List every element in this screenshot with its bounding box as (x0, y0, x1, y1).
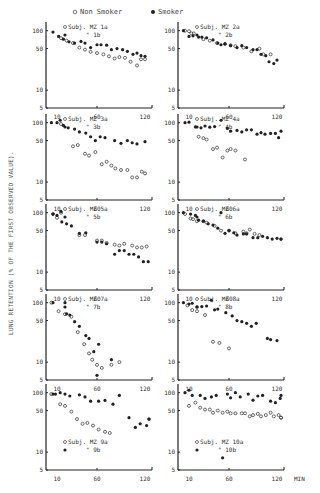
data-point-smoker (226, 392, 229, 395)
data-point-smoker (89, 400, 92, 403)
panel-6: 510501001060120Subj. MZ 6a" 6b (164, 204, 284, 302)
data-point-non-smoker (220, 229, 223, 232)
data-point-smoker (261, 235, 264, 238)
data-point-smoker (187, 302, 190, 305)
data-point-smoker (256, 394, 259, 397)
data-point-smoker (67, 40, 70, 43)
data-point-smoker (135, 51, 138, 54)
data-point-smoker (232, 231, 235, 234)
data-point-smoker (68, 394, 71, 397)
data-point-non-smoker (97, 428, 100, 431)
data-point-non-smoker (248, 228, 251, 231)
data-point-non-smoker (123, 242, 126, 245)
data-point-smoker (251, 48, 254, 51)
data-point-smoker (84, 231, 87, 234)
data-point-smoker (235, 46, 238, 49)
data-point-smoker (200, 305, 203, 308)
data-point-non-smoker (126, 168, 129, 171)
data-point-smoker (240, 130, 243, 133)
data-point-smoker (78, 130, 81, 133)
data-point-smoker (97, 400, 100, 403)
data-point-smoker (54, 392, 57, 395)
y-tick-label: 100 (32, 27, 43, 34)
data-point-smoker (227, 229, 230, 232)
data-point-non-smoker (89, 50, 92, 53)
x-tick-label: 10 (53, 385, 61, 392)
data-point-non-smoker (108, 55, 111, 58)
data-point-smoker (113, 139, 116, 142)
data-point-non-smoker (144, 58, 147, 61)
x-tick-label: 60 (225, 385, 233, 392)
data-point-non-smoker (280, 416, 283, 419)
data-point-smoker (266, 337, 269, 340)
data-point-smoker (245, 46, 248, 49)
panel-legend-a: Subj. MZ 9a (68, 438, 108, 446)
data-point-non-smoker (204, 408, 207, 411)
data-point-non-smoker (105, 160, 108, 163)
data-point-smoker (199, 394, 202, 397)
data-point-smoker (279, 394, 282, 397)
data-point-non-smoker (76, 418, 79, 421)
data-point-non-smoker (269, 411, 272, 414)
data-point-smoker (118, 249, 121, 252)
data-point-smoker (143, 140, 146, 143)
y-tick-label: 10 (36, 178, 44, 185)
data-point-non-smoker (205, 138, 208, 141)
data-point-non-smoker (136, 64, 139, 67)
data-point-non-smoker (272, 415, 275, 418)
data-point-smoker (223, 232, 226, 235)
data-point-smoker (187, 389, 190, 392)
data-point-smoker (275, 339, 278, 342)
data-point-smoker (231, 314, 234, 317)
panel-2: 510501001060120Subj. MZ 2a" 2b (164, 22, 284, 120)
x-tick-label: 60 (93, 385, 101, 392)
y-tick-label: 100 (32, 389, 43, 396)
data-point-non-smoker (83, 343, 86, 346)
data-point-smoker (197, 36, 200, 39)
y-tick-label: 50 (168, 45, 176, 52)
y-tick-label: 50 (36, 45, 44, 52)
data-point-smoker (277, 136, 280, 139)
y-tick-label: 50 (36, 407, 44, 414)
data-point-smoker (207, 222, 210, 225)
data-point-non-smoker (218, 341, 221, 344)
x-tick-label: 10 (185, 295, 193, 302)
data-point-smoker (189, 212, 192, 215)
y-tick-label: 50 (36, 227, 44, 234)
data-point-smoker (256, 236, 259, 239)
x-tick-label: 120 (140, 295, 151, 302)
data-point-smoker (239, 395, 242, 398)
data-point-smoker (111, 403, 114, 406)
data-point-smoker (269, 132, 272, 135)
data-point-smoker (274, 132, 277, 135)
data-point-smoker (213, 125, 216, 128)
data-point-non-smoker (248, 415, 251, 418)
data-point-smoker (127, 416, 130, 419)
data-point-non-smoker (120, 168, 123, 171)
y-tick-label: 50 (168, 317, 176, 324)
y-tick-label: 50 (168, 227, 176, 234)
data-point-smoker (235, 129, 238, 132)
data-point-smoker (251, 399, 254, 402)
data-point-smoker (78, 232, 81, 235)
y-tick-label: 10 (36, 268, 44, 275)
data-point-smoker (73, 320, 76, 323)
data-point-smoker (59, 210, 62, 213)
x-tick-label: 120 (272, 475, 283, 482)
data-point-smoker (205, 36, 208, 39)
y-tick-label: 100 (164, 119, 175, 126)
data-point-smoker (234, 391, 237, 394)
data-point-non-smoker (81, 422, 84, 425)
data-point-non-smoker (86, 421, 89, 424)
data-point-smoker (142, 260, 145, 263)
data-point-non-smoker (108, 431, 111, 434)
y-tick-label: 10 (168, 178, 176, 185)
data-point-smoker (182, 301, 185, 304)
data-point-smoker (89, 135, 92, 138)
panel-legend-a: Subj. MZ 10a (200, 438, 244, 446)
data-point-non-smoker (140, 246, 143, 249)
data-point-smoker (127, 253, 130, 256)
data-point-non-smoker (59, 403, 62, 406)
data-point-non-smoker (124, 56, 127, 59)
data-point-non-smoker (72, 145, 75, 148)
